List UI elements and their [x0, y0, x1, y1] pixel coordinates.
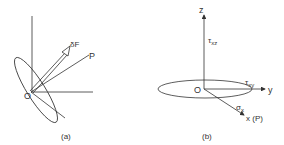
stress-diagram: O δF P (a) z y x (P) O τxz τxy σx (b) — [0, 0, 284, 145]
origin-label-a: O — [24, 91, 31, 101]
delta-f-arrow — [30, 46, 70, 93]
point-label-a: P — [89, 51, 95, 61]
origin-label-b: O — [194, 85, 201, 95]
caption-b: (b) — [202, 132, 212, 141]
z-label: z — [199, 5, 204, 15]
tau-xy-label: τxy — [245, 78, 254, 88]
panel-a: O δF P (a) — [8, 16, 95, 141]
normal-line-a — [31, 92, 65, 118]
tau-xz-label: τxz — [208, 36, 217, 46]
force-label: δF — [70, 40, 79, 49]
y-label: y — [268, 85, 273, 95]
sigma-x-label: σx — [236, 103, 244, 113]
caption-a: (a) — [61, 132, 71, 141]
line-to-p — [31, 55, 89, 92]
x-label: x (P) — [246, 114, 263, 123]
panel-b: z y x (P) O τxz τxy σx (b) — [158, 5, 273, 141]
